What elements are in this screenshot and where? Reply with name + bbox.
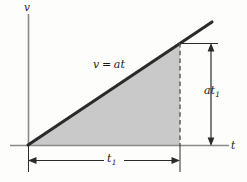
equation-operator: = bbox=[99, 58, 113, 71]
at1-subscript: 1 bbox=[215, 90, 220, 99]
equation-rhs: at bbox=[114, 58, 125, 71]
velocity-time-figure: v t v=at at1 t1 bbox=[0, 0, 247, 182]
y-axis-label: v bbox=[24, 2, 30, 13]
t1-arrow-left-icon bbox=[28, 157, 37, 164]
t1-subscript: 1 bbox=[112, 158, 117, 167]
t1-base-text: t bbox=[107, 152, 111, 165]
t1-dimension-label: t1 bbox=[107, 153, 116, 164]
t1-arrow-right-icon bbox=[172, 157, 181, 164]
x-axis-label: t bbox=[231, 140, 235, 151]
at1-arrow-up-icon bbox=[208, 43, 215, 52]
at1-base-text: at bbox=[204, 84, 215, 97]
at1-dimension-label: at1 bbox=[204, 85, 220, 96]
equation-label: v=at bbox=[93, 59, 125, 70]
